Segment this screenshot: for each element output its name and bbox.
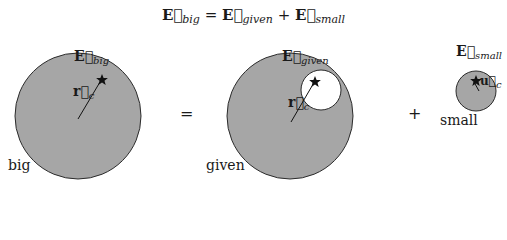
caption-big: big [8,157,30,173]
rc-label-given: r⃗c [288,94,309,112]
plus-sign: + [408,104,421,123]
big-sphere [15,53,141,179]
E-small-label: E⃗small [456,43,502,61]
given-sphere [227,53,353,179]
E-big-label: E⃗big [74,48,109,66]
caption-given: given [206,157,245,173]
rc-label-big: r⃗c [73,83,94,101]
uc-label-small: u⃗c [480,74,502,90]
caption-small: small [440,112,478,128]
E-given-label: E⃗given [282,48,329,66]
equals-sign: = [180,104,193,123]
